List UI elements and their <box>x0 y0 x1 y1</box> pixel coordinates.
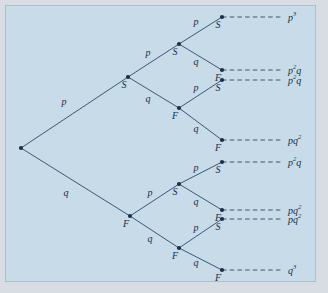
outcome-connectors <box>222 17 282 270</box>
node-outcome-letter: S <box>173 47 178 57</box>
node-outcome-letter: S <box>216 222 221 232</box>
tree-canvas <box>0 0 328 293</box>
branch-probability-label: p <box>194 83 199 93</box>
node-outcome-letter: S <box>216 165 221 175</box>
branch-probability-label: q <box>194 124 199 134</box>
tree-branch <box>179 248 222 270</box>
tree-node-dot <box>19 146 23 150</box>
tree-branch <box>179 108 222 140</box>
tree-branch <box>179 184 222 210</box>
node-outcome-letter: F <box>172 111 178 121</box>
probability-tree-figure: pqpqpqpqpqpqpqp3p2qp2qpq2p2qpq2pq2q3SFSF… <box>0 0 328 293</box>
branch-probability-label: q <box>194 258 199 268</box>
branch-probability-label: p <box>62 97 67 107</box>
outcome-probability-label: p2q <box>288 156 301 167</box>
tree-node-dot <box>177 182 181 186</box>
node-outcome-letter: S <box>216 20 221 30</box>
branch-probability-label: p <box>194 163 199 173</box>
tree-branch <box>128 44 179 77</box>
branch-probability-label: p <box>194 17 199 27</box>
node-outcome-letter: S <box>216 83 221 93</box>
branch-probability-label: p <box>194 223 199 233</box>
tree-node-dot <box>126 75 130 79</box>
tree-nodes <box>19 15 224 272</box>
tree-branch <box>179 44 222 70</box>
outcome-probability-label: q3 <box>288 264 296 275</box>
node-outcome-letter: S <box>173 187 178 197</box>
outcome-probability-label: p3 <box>288 11 296 22</box>
node-outcome-letter: S <box>122 80 127 90</box>
branch-probability-label: q <box>148 234 153 244</box>
node-outcome-letter: F <box>123 219 129 229</box>
tree-branch <box>21 148 130 216</box>
branch-probability-label: p <box>146 48 151 58</box>
tree-node-dot <box>220 15 224 19</box>
branch-probability-label: p <box>148 188 153 198</box>
branch-probability-label: q <box>194 197 199 207</box>
outcome-probability-label: pq2 <box>288 213 301 224</box>
branch-probability-label: q <box>64 188 69 198</box>
tree-branches <box>21 17 222 270</box>
tree-branch <box>128 77 179 108</box>
branch-probability-label: q <box>146 94 151 104</box>
node-outcome-letter: F <box>215 143 221 153</box>
tree-branch <box>21 77 128 148</box>
node-outcome-letter: F <box>172 251 178 261</box>
branch-probability-label: q <box>194 57 199 67</box>
node-outcome-letter: F <box>215 273 221 283</box>
outcome-probability-label: p2q <box>288 74 301 85</box>
tree-node-dot <box>177 42 181 46</box>
tree-node-dot <box>220 160 224 164</box>
tree-branch <box>130 216 179 248</box>
outcome-probability-label: pq2 <box>288 134 301 145</box>
